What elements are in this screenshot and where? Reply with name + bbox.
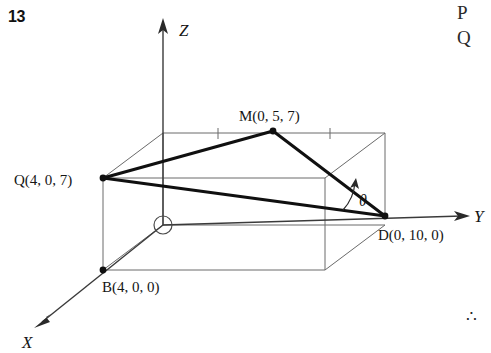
point-label-m: M(0, 5, 7)	[239, 108, 300, 125]
vertex-dot-b	[100, 267, 107, 274]
axis-y-line	[163, 216, 462, 225]
vertex-dots	[100, 128, 389, 274]
point-label-d: D(0, 10, 0)	[378, 227, 444, 244]
axis-label-z: Z	[179, 21, 189, 40]
vertex-dot-m	[270, 128, 277, 135]
cuboid-edges	[103, 128, 385, 270]
triangle-qmd	[103, 131, 385, 216]
vertex-dot-d	[382, 213, 389, 220]
edge-bottom-right-diagonal	[325, 225, 385, 270]
axis-label-y: Y	[474, 207, 485, 226]
coordinate-diagram: Z Y X M(0, 5, 7) Q(4, 0, 7) D(0, 10, 0) …	[0, 0, 491, 353]
point-label-b: B(4, 0, 0)	[102, 279, 160, 296]
axis-label-x: X	[21, 333, 33, 352]
point-label-q: Q(4, 0, 7)	[14, 172, 72, 189]
angle-label-theta: θ	[359, 192, 367, 209]
axis-arrowheads	[34, 18, 470, 328]
axis-lines	[42, 26, 462, 322]
segment-qm	[103, 131, 273, 178]
edge-top-right-diagonal	[325, 133, 385, 178]
vertex-dot-q	[100, 175, 107, 182]
figure-page: 13 P Q ∴	[0, 0, 491, 353]
